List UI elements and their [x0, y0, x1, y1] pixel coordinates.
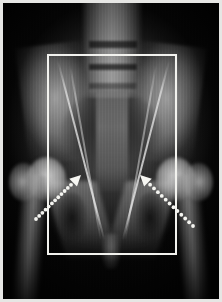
- left-dotted-arrow-dot: [34, 217, 38, 221]
- left-dotted-arrow-dot: [44, 208, 48, 212]
- right-dotted-arrow-dot: [156, 190, 160, 194]
- left-dotted-arrow-dot: [63, 189, 67, 193]
- left-dotted-arrow-dot: [69, 183, 73, 187]
- xray-canvas: [3, 3, 219, 299]
- right-dotted-arrow-dot: [187, 220, 191, 224]
- left-dotted-arrow-dot: [53, 198, 57, 202]
- left-dotted-arrow-dot: [60, 192, 64, 196]
- left-dotted-arrow-dot: [37, 214, 41, 218]
- right-dotted-arrow-dot: [191, 224, 195, 228]
- right-dotted-arrow-dot: [183, 217, 187, 221]
- right-dotted-arrow-dot: [152, 187, 156, 191]
- arrow-annotation-layer: [3, 3, 219, 299]
- left-dotted-arrow-dot: [47, 205, 51, 209]
- left-dotted-arrow-dot: [56, 195, 60, 199]
- right-dotted-arrow-dot: [148, 183, 152, 187]
- right-dotted-arrow-dot: [179, 213, 183, 217]
- left-dotted-arrow-dot: [40, 211, 44, 215]
- radiograph-figure: [0, 0, 222, 302]
- right-dotted-arrow-dot: [160, 194, 164, 198]
- left-dotted-arrow-dot: [50, 202, 54, 206]
- right-dotted-arrow-dot: [168, 202, 172, 206]
- right-dotted-arrow-dot: [176, 209, 180, 213]
- left-dotted-arrow-dot: [66, 186, 70, 190]
- right-dotted-arrow-dot: [164, 198, 168, 202]
- right-dotted-arrow-dot: [172, 205, 176, 209]
